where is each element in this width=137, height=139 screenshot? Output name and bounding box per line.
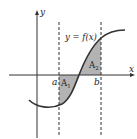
y-axis-label: y bbox=[39, 7, 46, 17]
curve-label: y = f(x) bbox=[64, 32, 97, 42]
area-diagram: y x y = f(x) a b A1 A2 bbox=[0, 0, 137, 139]
bound-label-b: b bbox=[94, 77, 100, 87]
bound-label-a: a bbox=[52, 77, 57, 87]
shaded-regions bbox=[29, 38, 101, 110]
y-axis-arrow-icon bbox=[35, 10, 39, 15]
x-axis-label: x bbox=[129, 64, 134, 74]
